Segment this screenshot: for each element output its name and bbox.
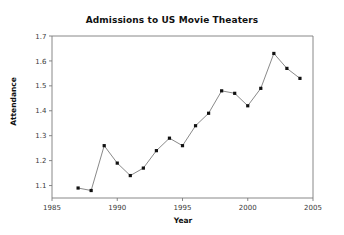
x-tick-label: 2000 bbox=[239, 204, 257, 212]
data-point-marker bbox=[77, 186, 80, 189]
data-point-marker bbox=[129, 174, 132, 177]
data-point-marker bbox=[103, 144, 106, 147]
data-point-marker bbox=[155, 149, 158, 152]
data-point-marker bbox=[181, 144, 184, 147]
y-axis-ticks: 1.11.21.31.41.51.61.7 bbox=[35, 33, 52, 191]
y-tick-label: 1.3 bbox=[35, 132, 46, 140]
x-tick-label: 1985 bbox=[43, 204, 61, 212]
data-point-marker bbox=[116, 162, 119, 165]
plot-area: 1.11.21.31.41.51.61.7 198519901995200020… bbox=[0, 0, 344, 235]
y-tick-label: 1.2 bbox=[35, 157, 46, 165]
x-tick-label: 1990 bbox=[108, 204, 126, 212]
y-tick-label: 1.4 bbox=[35, 107, 47, 115]
y-tick-label: 1.5 bbox=[35, 82, 46, 90]
data-point-marker bbox=[168, 137, 171, 140]
data-point-marker bbox=[90, 189, 93, 192]
data-point-markers bbox=[77, 52, 302, 192]
data-point-marker bbox=[142, 166, 145, 169]
y-tick-label: 1.6 bbox=[35, 58, 47, 66]
axes bbox=[52, 36, 313, 198]
x-tick-label: 2005 bbox=[304, 204, 322, 212]
data-point-marker bbox=[220, 89, 223, 92]
data-point-marker bbox=[194, 124, 197, 127]
x-tick-label: 1995 bbox=[174, 204, 192, 212]
chart-figure: Admissions to US Movie Theaters Attendan… bbox=[0, 0, 344, 235]
data-point-marker bbox=[259, 87, 262, 90]
data-point-marker bbox=[233, 92, 236, 95]
y-tick-label: 1.7 bbox=[35, 33, 46, 41]
data-series-line bbox=[78, 53, 300, 190]
x-axis-ticks: 19851990199520002005 bbox=[43, 198, 322, 212]
data-point-marker bbox=[272, 52, 275, 55]
data-point-marker bbox=[285, 67, 288, 70]
y-tick-label: 1.1 bbox=[35, 182, 46, 190]
data-point-marker bbox=[207, 112, 210, 115]
data-point-marker bbox=[298, 77, 301, 80]
data-point-marker bbox=[246, 104, 249, 107]
